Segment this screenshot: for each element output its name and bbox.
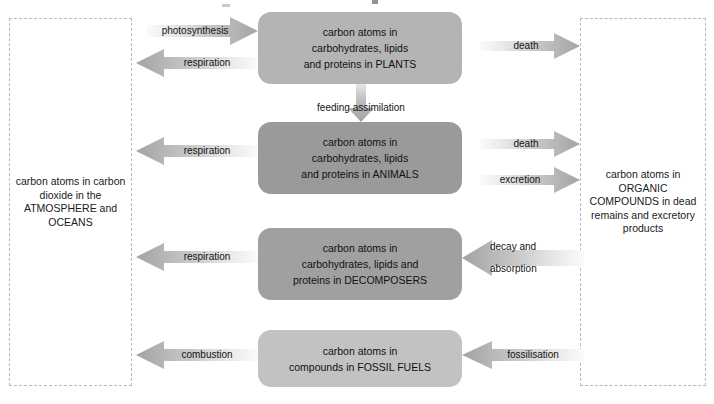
pool-animals-line-2: carbohydrates, lipids (312, 150, 408, 166)
flow-combustion-label: combustion (164, 348, 250, 361)
pool-plants-line-1: carbon atoms in (323, 24, 398, 40)
flow-respiration-plants-label: respiration (166, 56, 248, 69)
title-fragment-mark (372, 0, 378, 4)
pool-plants: carbon atoms in carbohydrates, lipids an… (258, 12, 462, 84)
flow-feeding-assimilation-label: feeding assimilation (283, 101, 439, 114)
pool-plants-line-2: carbohydrates, lipids (312, 40, 408, 56)
flow-excretion-label: excretion (482, 173, 558, 186)
flow-fossilisation-label: fossilisation (492, 348, 574, 361)
pool-animals: carbon atoms in carbohydrates, lipids an… (258, 122, 462, 194)
pool-decomposers: carbon atoms in carbohydrates, lipids an… (258, 228, 462, 300)
pool-animals-line-3: and proteins in ANIMALS (301, 166, 418, 182)
pool-fossil-fuels: carbon atoms in compounds in FOSSIL FUEL… (258, 330, 462, 387)
pool-animals-line-1: carbon atoms in (323, 134, 398, 150)
flow-decay-absorption-label-line1: decay and (490, 240, 570, 253)
carbon-cycle-diagram: carbon atoms in carbon dioxide in the AT… (0, 0, 714, 404)
pool-fossil-line-1: carbon atoms in (323, 343, 398, 359)
pool-plants-line-3: and proteins in PLANTS (304, 56, 417, 72)
flow-respiration-decomposers-label: respiration (166, 250, 248, 263)
flow-death-plants-label: death (490, 39, 562, 52)
title-fragment-mark-secondary (222, 4, 230, 7)
pool-fossil-line-2: compounds in FOSSIL FUELS (289, 359, 431, 375)
reservoir-organic-label: carbon atoms in ORGANIC COMPOUNDS in dea… (581, 168, 705, 236)
reservoir-organic-compounds: carbon atoms in ORGANIC COMPOUNDS in dea… (580, 18, 706, 386)
pool-decomposers-line-2: carbohydrates, lipids and (302, 256, 419, 272)
pool-decomposers-line-1: carbon atoms in (323, 240, 398, 256)
flow-respiration-animals-label: respiration (166, 144, 248, 157)
flow-decay-absorption-label-line2: absorption (490, 262, 570, 275)
flow-photosynthesis-label: photosynthesis (150, 24, 240, 37)
reservoir-atmosphere-label: carbon atoms in carbon dioxide in the AT… (10, 175, 131, 229)
pool-decomposers-line-3: proteins in DECOMPOSERS (293, 272, 427, 288)
reservoir-atmosphere-oceans: carbon atoms in carbon dioxide in the AT… (9, 18, 132, 386)
flow-death-animals-label: death (490, 137, 562, 150)
